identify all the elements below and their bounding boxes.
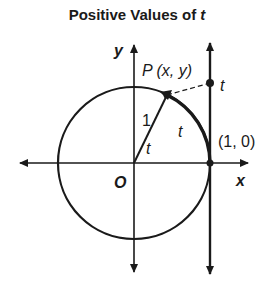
unit-circle-diagram: y x O P (x, y) 1 t t t (1, 0) [0,0,274,304]
radius-segment [134,95,167,163]
angle-label: t [146,140,151,157]
origin-label: O [114,174,127,191]
point-p-label: P (x, y) [142,62,192,79]
point-1-0-label: (1, 0) [218,133,255,150]
point-t-on-tangent [206,79,214,87]
y-axis-label: y [113,42,124,59]
x-axis-label: x [235,172,246,189]
arc-length-label: t [178,123,183,140]
arc-t [167,95,210,163]
point-1-0 [207,160,214,167]
point-p [164,92,171,99]
tangent-value-label: t [220,77,225,94]
radius-label: 1 [142,112,151,129]
wrap-dashed-line [167,83,210,95]
